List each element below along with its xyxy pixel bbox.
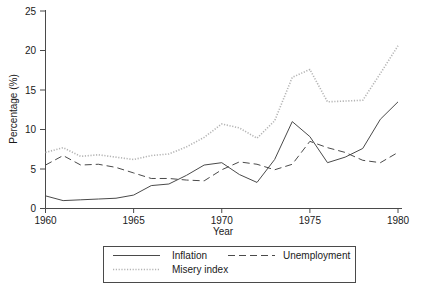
legend-label-inflation: Inflation <box>172 250 207 261</box>
legend-label-misery-index: Misery index <box>172 264 228 275</box>
x-tick-label: 1960 <box>34 215 57 226</box>
series-line-misery-index <box>46 46 399 160</box>
x-axis-title: Year <box>213 226 234 237</box>
y-tick-label: 5 <box>30 164 36 175</box>
x-tick-label: 1965 <box>123 215 146 226</box>
x-tick-label: 1975 <box>299 215 322 226</box>
y-axis-title: Percentage (%) <box>8 74 19 143</box>
y-tick-label: 20 <box>25 45 37 56</box>
x-tick-label: 1970 <box>211 215 234 226</box>
y-axis-ticks: 0510152025 <box>25 6 46 215</box>
y-tick-label: 25 <box>25 6 37 17</box>
line-chart-svg: 0510152025 19601965197019751980 Percenta… <box>0 0 434 289</box>
y-tick-label: 0 <box>30 203 36 214</box>
legend-label-unemployment: Unemployment <box>283 250 350 261</box>
series-line-inflation <box>46 102 399 201</box>
x-tick-label: 1980 <box>387 215 410 226</box>
chart-figure: 0510152025 19601965197019751980 Percenta… <box>0 0 434 289</box>
series-group <box>46 46 399 201</box>
y-tick-label: 10 <box>25 124 37 135</box>
x-axis-ticks: 19601965197019751980 <box>34 209 409 227</box>
series-line-unemployment <box>46 141 399 181</box>
y-tick-label: 15 <box>25 85 37 96</box>
